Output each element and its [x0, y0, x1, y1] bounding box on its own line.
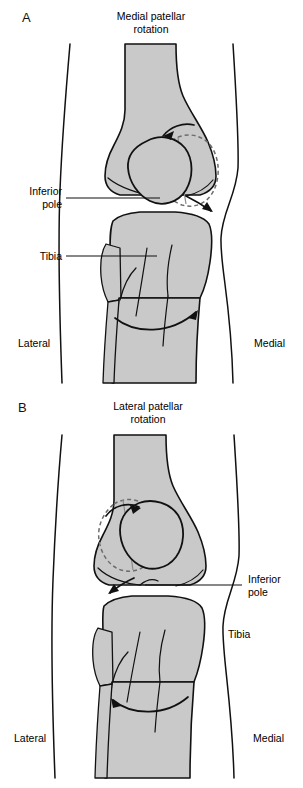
tibial-shaft-b — [105, 682, 194, 778]
inferior-pole-label-b-line2: pole — [248, 586, 268, 598]
tibial-plateau-b — [103, 596, 205, 682]
panel-b-title-line2: rotation — [130, 413, 165, 425]
panel-b-letter: B — [18, 400, 27, 415]
tibia-label-b: Tibia — [228, 628, 251, 640]
patellar-rotation-figure: A Medial patellar rotation — [0, 0, 303, 788]
inferior-pole-label-b-line1: Inferior — [248, 573, 281, 585]
figure-container: A Medial patellar rotation — [0, 0, 303, 788]
medial-label-a: Medial — [254, 337, 285, 349]
lateral-label-a: Lateral — [18, 337, 50, 349]
medial-label-b: Medial — [253, 732, 284, 744]
panel-a-title-line2: rotation — [133, 23, 168, 35]
tibial-shaft-a — [112, 298, 200, 383]
fibula-head-a — [101, 244, 121, 302]
tibia-label-a: Tibia — [40, 250, 63, 262]
inferior-pole-label-a-line2: pole — [42, 198, 62, 210]
panel-b-title-line1: Lateral patellar — [113, 400, 183, 412]
lateral-label-b: Lateral — [14, 732, 46, 744]
panel-a-letter: A — [22, 10, 31, 25]
fibula-head-b — [93, 628, 113, 686]
panel-a-title-line1: Medial patellar — [117, 10, 186, 22]
inferior-pole-label-a-line1: Inferior — [29, 185, 62, 197]
